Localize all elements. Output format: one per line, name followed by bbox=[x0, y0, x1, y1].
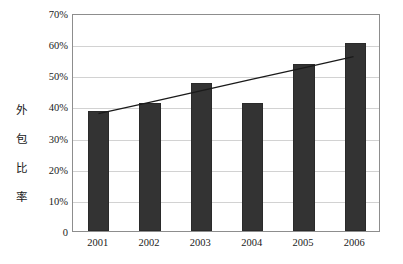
y-axis-tick-label: 20% bbox=[34, 164, 68, 175]
y-axis-tick-label: 10% bbox=[34, 195, 68, 206]
bar bbox=[242, 103, 264, 231]
y-axis-tick-label: 60% bbox=[34, 40, 68, 51]
x-axis-tick-label: 2006 bbox=[344, 236, 365, 249]
y-axis-tick-label: 70% bbox=[34, 9, 68, 20]
y-axis-tick-label: 40% bbox=[34, 102, 68, 113]
bar bbox=[293, 64, 315, 231]
y-axis-title-char: 率 bbox=[8, 190, 34, 205]
y-axis-tick-label: 30% bbox=[34, 133, 68, 144]
x-axis-tick-label: 2003 bbox=[190, 236, 211, 249]
x-axis-tick-label: 2005 bbox=[293, 236, 314, 249]
y-axis-tick-label: 0 bbox=[34, 227, 68, 238]
x-axis-tick-label: 2001 bbox=[87, 236, 108, 249]
bar bbox=[88, 111, 110, 231]
y-axis-title: 外 包 比 率 bbox=[8, 88, 34, 219]
bars-layer bbox=[73, 15, 379, 231]
y-axis-title-char: 外 bbox=[8, 103, 34, 118]
x-axis-tick-labels: 200120022003200420052006 bbox=[72, 236, 380, 256]
y-axis-tick-labels: 70% 60% 50% 40% 30% 20% 10% 0 bbox=[34, 0, 68, 264]
bar-chart: 外 包 比 率 70% 60% 50% 40% 30% 20% 10% 0 20… bbox=[0, 0, 403, 264]
bar bbox=[191, 83, 213, 231]
y-axis-title-char: 包 bbox=[8, 132, 34, 147]
plot-area bbox=[72, 14, 380, 232]
x-axis-tick-label: 2004 bbox=[241, 236, 262, 249]
bar bbox=[345, 43, 367, 231]
x-axis-tick-label: 2002 bbox=[139, 236, 160, 249]
y-axis-title-char: 比 bbox=[8, 161, 34, 176]
bar bbox=[139, 103, 161, 231]
y-axis-tick-label: 50% bbox=[34, 71, 68, 82]
